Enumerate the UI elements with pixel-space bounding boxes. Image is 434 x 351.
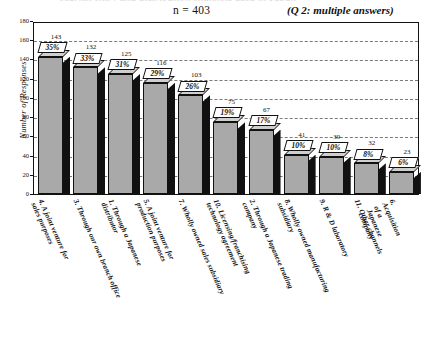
bar-side [413,172,421,194]
bar-percent-callout: 33% [73,53,103,64]
bar [249,130,274,194]
bar-percent-label: 33% [75,54,100,64]
bar-percent-callout: 35% [37,42,67,53]
bar-side-face [62,57,70,194]
bar-side [273,130,281,194]
y-tick-mark [30,136,33,137]
bar-face [38,57,63,194]
y-tick-mark [30,98,33,99]
y-tick-mark [30,175,33,176]
bar-value-label: 23 [391,149,423,156]
bar [108,74,133,194]
bar [73,67,98,194]
bar-face [178,95,203,194]
bar-side [132,74,140,194]
bar-side-face [413,172,421,194]
bar-side-face [378,163,386,194]
sample-size-label: n = 403 [173,4,210,16]
bar-percent-callout: 31% [108,59,138,70]
y-tick-mark [30,79,33,80]
bar-side [62,57,70,194]
bar-side-face [308,155,316,194]
y-tick-label: 20 [5,172,29,178]
y-tick-mark [30,40,33,41]
bar-side-face [167,83,175,194]
bar-value-label: 75 [215,99,247,106]
chart-header: Market entry and distribution channels u… [0,0,434,24]
x-axis-label: 9. R & D laboratory [317,198,350,258]
bar [389,172,414,194]
x-axis-labels: 4. A joint venture for sales purposes3. … [0,196,434,351]
y-tick-label: 80 [5,114,29,120]
cut-off-title: Market entry and distribution channels u… [60,0,380,1]
bar-percent-label: 8% [356,150,381,160]
y-tick-label: 180 [5,18,29,24]
y-tick-label: 40 [5,153,29,159]
bar-side [378,163,386,194]
bar-percent-callout: 8% [353,149,383,160]
bar-percent-callout: 26% [178,81,208,92]
y-tick-mark [30,59,33,60]
bar-side-face [343,157,351,194]
question-note-label: (Q 2: multiple answers) [287,4,394,16]
bar-percent-callout: 17% [248,115,278,126]
bar [38,57,63,194]
x-axis-label: 4. A joint venture for sales purposes [29,198,71,265]
bar-side [202,95,210,194]
y-tick-label: 140 [5,56,29,62]
bar-value-label: 39 [321,134,353,141]
bar-face [213,122,238,194]
bar-value-label: 132 [75,44,107,51]
y-tick-mark [30,156,33,157]
bar-face [108,74,133,194]
y-tick-label: 100 [5,95,29,101]
bar-value-label: 41 [286,132,318,139]
y-tick-mark [30,117,33,118]
bar-percent-label: 26% [180,82,205,92]
bar-percent-label: 10% [285,141,310,151]
bar-side [97,67,105,194]
bar [319,157,344,194]
bar-value-label: 103 [180,72,212,79]
bar [284,155,309,194]
bar-side-face [132,74,140,194]
bar-percent-label: 19% [215,108,240,118]
y-tick-mark [30,194,33,195]
y-tick-mark [30,21,33,22]
plot-area: 14335%13233%12531%11629%10326%7519%6717%… [33,22,419,195]
bar-side [343,157,351,194]
bar-percent-callout: 10% [283,140,313,151]
bar-percent-label: 29% [145,69,170,79]
bar-percent-callout: 19% [213,107,243,118]
bar-side-face [237,122,245,194]
bar-percent-callout: 10% [318,142,348,153]
y-tick-label: 160 [5,37,29,43]
bar [354,163,379,194]
bar-face [73,67,98,194]
bar-percent-label: 6% [391,158,416,168]
bar-value-label: 116 [145,60,177,67]
y-tick-label: 120 [5,76,29,82]
bar-percent-label: 10% [321,143,346,153]
bar-series: 14335%13233%12531%11629%10326%7519%6717%… [34,23,418,194]
bar-side-face [202,95,210,194]
bar-face [354,163,379,194]
bar [178,95,203,194]
bar-side [237,122,245,194]
bar-value-label: 32 [356,140,388,147]
bar-face [249,130,274,194]
y-tick-label: 60 [5,133,29,139]
bar-face [389,172,414,194]
bar-percent-callout: 6% [388,157,418,168]
bar-value-label: 125 [110,51,142,58]
bar [213,122,238,194]
bar-face [284,155,309,194]
bar-value-label: 67 [251,107,283,114]
bar-side-face [97,67,105,194]
bar [143,83,168,194]
bar-face [319,157,344,194]
bar-side [167,83,175,194]
bar-percent-label: 17% [250,116,275,126]
bar-value-label: 143 [40,34,72,41]
bar-side-face [273,130,281,194]
